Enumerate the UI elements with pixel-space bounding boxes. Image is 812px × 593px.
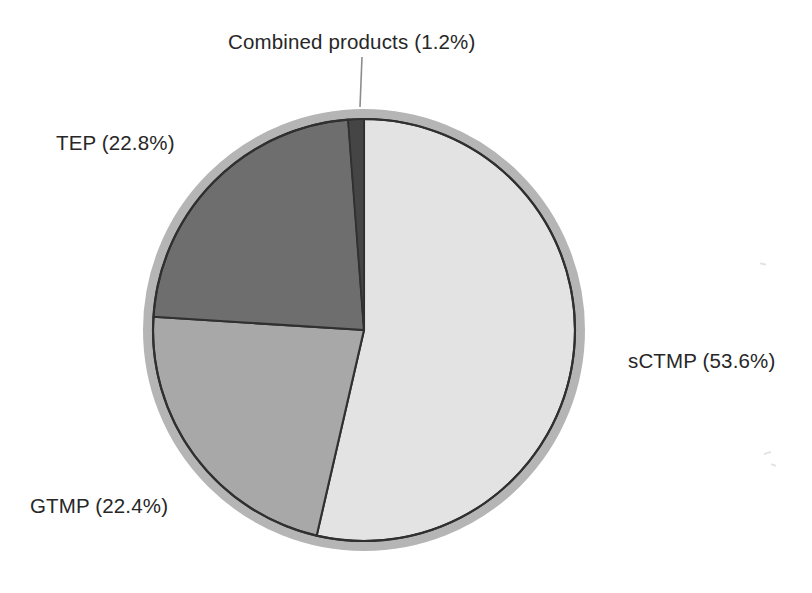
pie-label-gtmp: GTMP (22.4%): [30, 494, 168, 518]
pie-chart-figure: Combined products (1.2%) TEP (22.8%) GTM…: [0, 0, 812, 593]
pie-slice-tep[interactable]: [153, 120, 364, 330]
combined-products-leader-line: [360, 57, 362, 107]
pie-label-sctmp: sCTMP (53.6%): [628, 349, 775, 373]
pie-label-combined-products: Combined products (1.2%): [228, 30, 475, 54]
pie-label-tep: TEP (22.8%): [56, 131, 175, 155]
